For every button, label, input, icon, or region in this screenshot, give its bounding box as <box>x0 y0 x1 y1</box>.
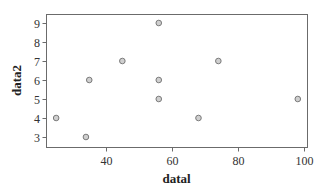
x-axis: 406080100 <box>101 148 314 169</box>
x-tick-label: 100 <box>296 154 314 168</box>
y-tick-label: 9 <box>34 17 40 31</box>
x-tick-label: 60 <box>167 154 179 168</box>
data-point <box>156 77 162 83</box>
y-tick-label: 4 <box>34 112 40 126</box>
data-point <box>53 115 59 121</box>
x-tick-label: 40 <box>101 154 113 168</box>
x-axis-title: datal <box>162 171 191 186</box>
scatter-chart: 406080100 3456789 datal data2 <box>0 0 331 192</box>
y-tick-label: 3 <box>34 131 40 145</box>
data-point <box>156 96 162 102</box>
data-point <box>83 134 89 140</box>
y-tick-label: 6 <box>34 74 40 88</box>
y-tick-label: 8 <box>34 36 40 50</box>
data-points <box>53 20 300 140</box>
y-axis: 3456789 <box>34 17 47 145</box>
data-point <box>156 20 162 26</box>
y-axis-title: data2 <box>9 65 24 96</box>
x-tick-label: 80 <box>233 154 245 168</box>
data-point <box>196 115 202 121</box>
data-point <box>216 58 222 64</box>
data-point <box>86 77 92 83</box>
data-point <box>295 96 301 102</box>
data-point <box>120 58 126 64</box>
plot-area-frame <box>47 15 308 148</box>
y-tick-label: 7 <box>34 55 40 69</box>
y-tick-label: 5 <box>34 93 40 107</box>
